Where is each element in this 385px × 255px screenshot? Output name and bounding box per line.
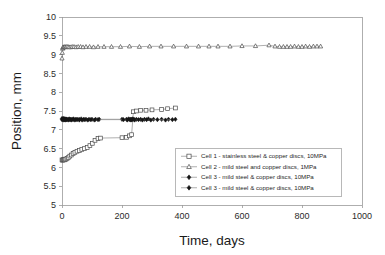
y-tick-label: 6.5 bbox=[43, 144, 56, 154]
x-tick-label: 800 bbox=[294, 211, 309, 221]
x-axis-title: Time, days bbox=[179, 233, 245, 248]
x-tick-label: 400 bbox=[174, 211, 189, 221]
y-tick-label: 7 bbox=[51, 125, 56, 135]
y-tick-label: 5 bbox=[51, 200, 56, 210]
data-point-marker bbox=[166, 107, 170, 111]
data-point-marker bbox=[187, 154, 191, 158]
legend-entry-label: Cell 2 - mild steel and copper discs, 1M… bbox=[201, 163, 317, 170]
data-point-marker bbox=[99, 136, 103, 140]
chart-figure: 55.566.577.588.599.510 02004006008001000… bbox=[0, 0, 385, 255]
legend-entry-label: Cell 1 - stainless steel & copper discs,… bbox=[201, 152, 327, 159]
y-axis-title: Position, mm bbox=[9, 72, 24, 150]
data-point-marker bbox=[144, 108, 148, 112]
y-tick-label: 7.5 bbox=[43, 106, 56, 116]
data-point-marker bbox=[120, 136, 124, 140]
x-tick-label: 0 bbox=[59, 211, 64, 221]
legend-entry-label: Cell 3 - mild steel & copper discs, 10MP… bbox=[201, 184, 314, 191]
y-tick-label: 6 bbox=[51, 163, 56, 173]
x-tick-label: 200 bbox=[114, 211, 129, 221]
y-tick-label: 9 bbox=[51, 50, 56, 60]
y-tick-label: 10 bbox=[46, 12, 56, 22]
data-point-marker bbox=[174, 106, 178, 110]
y-tick-label: 8.5 bbox=[43, 69, 56, 79]
chart-background bbox=[0, 0, 385, 255]
legend-entry-label: Cell 3 - mild steel & copper discs, 10MP… bbox=[201, 173, 314, 180]
x-tick-label: 1000 bbox=[352, 211, 372, 221]
data-point-marker bbox=[150, 108, 154, 112]
y-tick-label: 9.5 bbox=[43, 31, 56, 41]
position-vs-time-chart: 55.566.577.588.599.510 02004006008001000… bbox=[0, 0, 385, 255]
data-point-marker bbox=[160, 108, 164, 112]
y-tick-label: 8 bbox=[51, 87, 56, 97]
data-point-marker bbox=[139, 108, 143, 112]
y-tick-label: 5.5 bbox=[43, 181, 56, 191]
chart-legend: Cell 1 - stainless steel & copper discs,… bbox=[175, 148, 341, 196]
data-point-marker bbox=[135, 109, 139, 113]
x-tick-label: 600 bbox=[234, 211, 249, 221]
data-point-marker bbox=[130, 133, 134, 137]
